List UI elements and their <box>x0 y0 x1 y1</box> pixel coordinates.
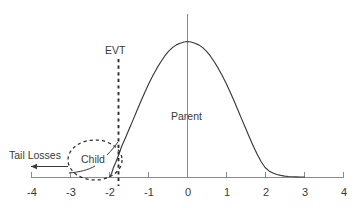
parent-label: Parent <box>171 110 202 122</box>
child-upper-leader-line <box>107 142 118 155</box>
x-tick-label-two: 2 <box>263 186 269 198</box>
x-tick-label-one: 1 <box>224 186 230 198</box>
parent-distribution-curve <box>110 42 305 178</box>
chart-figure: -4 -3 -2 -1 0 1 2 3 4 EVT Parent Child T… <box>0 0 362 208</box>
x-tick-label-minus1: -1 <box>144 186 154 198</box>
evt-label: EVT <box>105 44 125 56</box>
x-tick-label-minus2: -2 <box>105 186 115 198</box>
x-tick-label-minus3: -3 <box>66 186 76 198</box>
child-label: Child <box>81 153 105 165</box>
tail-losses-arrow <box>31 164 68 169</box>
x-tick-label-minus4: -4 <box>27 186 37 198</box>
distribution-plot <box>0 0 362 208</box>
x-tick-label-three: 3 <box>302 186 308 198</box>
x-tick-label-zero: 0 <box>185 186 191 198</box>
x-tick-label-four: 4 <box>341 186 347 198</box>
tail-losses-label: Tail Losses <box>9 149 61 161</box>
child-leader-line <box>69 166 95 173</box>
